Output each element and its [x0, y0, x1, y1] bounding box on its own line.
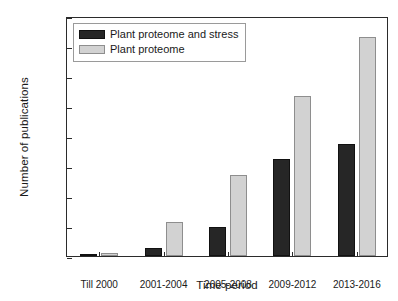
bar — [230, 175, 247, 256]
x-axis-tick-label: 2013-2016 — [317, 279, 397, 290]
x-axis-tick — [228, 252, 229, 256]
legend-swatch-plant-proteome-and-stress — [79, 30, 105, 39]
y-axis-tick — [67, 228, 72, 229]
y-axis-tick — [67, 138, 72, 139]
bar — [294, 96, 311, 256]
legend-item: Plant proteome — [79, 42, 238, 57]
y-axis-tick — [67, 48, 72, 49]
y-axis-tick — [67, 198, 72, 199]
y-axis-tick — [67, 258, 72, 259]
bar — [101, 253, 118, 256]
bar — [166, 222, 183, 257]
bar — [80, 254, 97, 256]
chart-legend: Plant proteome and stress Plant proteome — [73, 23, 246, 62]
x-axis-tick — [357, 252, 358, 256]
legend-item: Plant proteome and stress — [79, 27, 238, 42]
y-axis-tick — [67, 78, 72, 79]
legend-label: Plant proteome and stress — [110, 28, 238, 41]
bar-chart-figure: Number of publications Time period 02004… — [0, 0, 398, 301]
x-axis-tick — [292, 252, 293, 256]
x-axis-tick — [99, 252, 100, 256]
bar — [338, 144, 355, 257]
bar — [359, 37, 376, 256]
y-axis-tick — [67, 168, 72, 169]
y-axis-tick — [67, 108, 72, 109]
bar — [209, 227, 226, 256]
bar — [145, 248, 162, 256]
plot-area: 02004006008001000120014001600 Plant prot… — [66, 17, 388, 257]
bar — [273, 159, 290, 257]
y-axis-label: Number of publications — [15, 17, 33, 257]
x-axis-tick — [164, 252, 165, 256]
legend-label: Plant proteome — [110, 43, 185, 56]
legend-swatch-plant-proteome — [79, 45, 105, 54]
y-axis-tick — [67, 18, 72, 19]
